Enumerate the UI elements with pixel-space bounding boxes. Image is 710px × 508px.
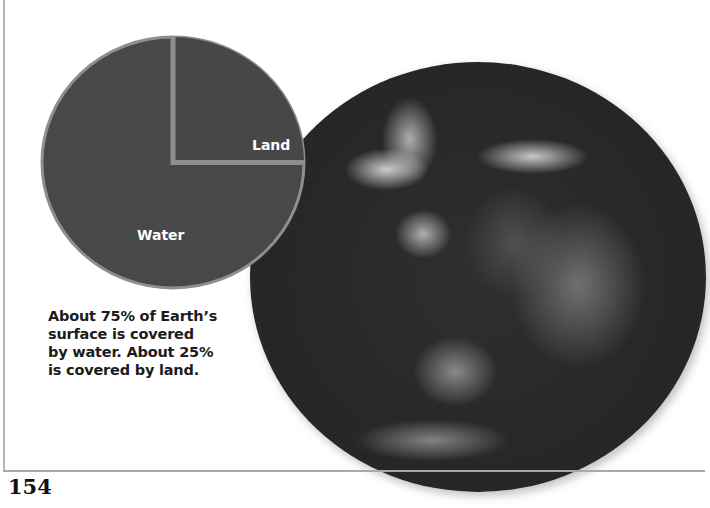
page-frame-left-rule: [3, 0, 5, 472]
pie-chart-graphic: [40, 35, 306, 290]
figure-caption: About 75% of Earth’s surface is covered …: [48, 307, 248, 379]
pie-label-land: Land: [252, 137, 290, 153]
pie-label-water: Water: [137, 227, 184, 243]
caption-line: surface is covered: [48, 325, 248, 343]
caption-line: is covered by land.: [48, 361, 248, 379]
land-water-pie-chart: Land Water: [40, 35, 306, 290]
caption-line: by water. About 25%: [48, 343, 248, 361]
page-frame-bottom-rule: [3, 470, 705, 472]
caption-line: About 75% of Earth’s: [48, 307, 248, 325]
earth-satellite-image: [250, 62, 706, 492]
page-number: 154: [8, 474, 52, 499]
